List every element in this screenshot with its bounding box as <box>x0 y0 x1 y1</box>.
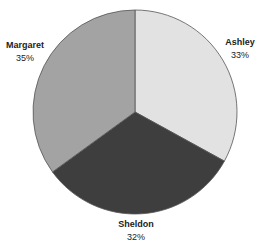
label-margaret-name: Margaret <box>6 39 44 52</box>
label-sheldon-name: Sheldon <box>118 218 154 231</box>
label-sheldon: Sheldon 32% <box>118 218 154 244</box>
label-ashley-pct: 33% <box>225 49 255 62</box>
label-ashley: Ashley 33% <box>225 36 255 62</box>
label-margaret: Margaret 35% <box>6 39 44 65</box>
label-margaret-pct: 35% <box>6 52 44 65</box>
pie-slices <box>33 10 237 214</box>
pie-chart <box>0 0 259 247</box>
label-ashley-name: Ashley <box>225 36 255 49</box>
label-sheldon-pct: 32% <box>118 231 154 244</box>
